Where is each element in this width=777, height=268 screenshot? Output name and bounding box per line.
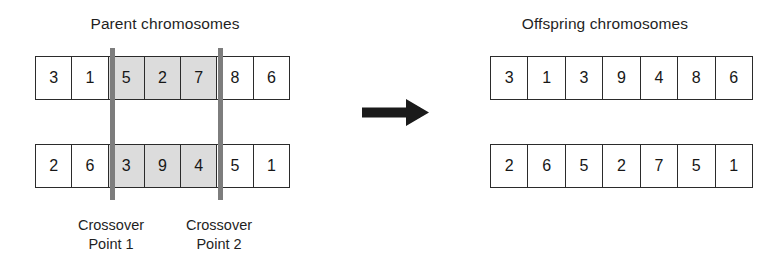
offspring-section-title: Offspring chromosomes — [440, 15, 770, 33]
gene-cell: 6 — [254, 57, 289, 99]
crossover-point-1-line — [110, 48, 115, 200]
crossover-point-2-label: Crossover Point 2 — [164, 216, 274, 254]
gene-cell: 2 — [491, 145, 528, 187]
gene-cell: 4 — [181, 145, 217, 187]
gene-cell: 6 — [528, 145, 565, 187]
gene-cell: 6 — [716, 57, 752, 99]
crossover-point-2-label-line-1: Crossover — [164, 216, 274, 235]
gene-cell: 8 — [678, 57, 715, 99]
right-arrow-icon — [362, 98, 430, 128]
gene-cell: 7 — [641, 145, 678, 187]
gene-cell: 9 — [603, 57, 640, 99]
crossover-point-2-line — [218, 48, 223, 200]
gene-cell: 2 — [603, 145, 640, 187]
gene-cell: 1 — [716, 145, 752, 187]
gene-cell: 5 — [678, 145, 715, 187]
crossover-point-1-label: Crossover Point 1 — [56, 216, 166, 254]
gene-cell: 6 — [72, 145, 108, 187]
gene-cell: 1 — [72, 57, 108, 99]
gene-cell: 2 — [36, 145, 72, 187]
parent-section-title: Parent chromosomes — [0, 15, 330, 33]
crossover-point-1-label-line-1: Crossover — [56, 216, 166, 235]
parent-chromosome-2: 2 6 3 9 4 5 1 — [35, 144, 290, 188]
gene-cell: 3 — [566, 57, 603, 99]
gene-cell: 4 — [641, 57, 678, 99]
gene-cell: 3 — [491, 57, 528, 99]
offspring-chromosome-2: 2 6 5 2 7 5 1 — [490, 144, 753, 188]
offspring-chromosome-1: 3 1 3 9 4 8 6 — [490, 56, 753, 100]
gene-cell: 3 — [36, 57, 72, 99]
gene-cell: 7 — [181, 57, 217, 99]
gene-cell: 5 — [566, 145, 603, 187]
gene-cell: 9 — [145, 145, 181, 187]
gene-cell: 1 — [528, 57, 565, 99]
crossover-point-2-label-line-2: Point 2 — [164, 235, 274, 254]
crossover-point-1-label-line-2: Point 1 — [56, 235, 166, 254]
gene-cell: 1 — [254, 145, 289, 187]
crossover-diagram: Parent chromosomes Offspring chromosomes… — [0, 0, 777, 268]
gene-cell: 2 — [145, 57, 181, 99]
parent-chromosome-1: 3 1 5 2 7 8 6 — [35, 56, 290, 100]
